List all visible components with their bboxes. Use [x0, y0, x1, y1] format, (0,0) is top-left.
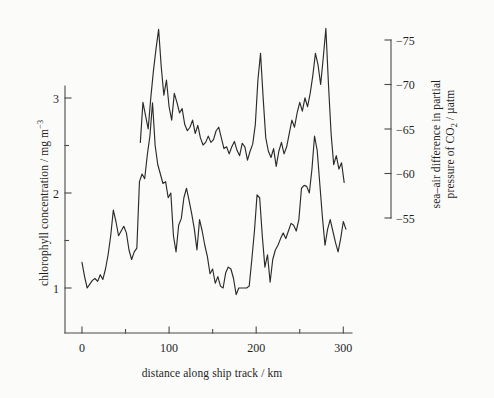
- y-axis-left-tick-label: 2: [53, 187, 59, 201]
- y-axis-right-tick-label: −60: [396, 167, 415, 181]
- y-axis-left-tick-label: 1: [53, 282, 59, 296]
- y-axis-right-tick-label: −75: [396, 34, 415, 48]
- x-axis-title: distance along ship track / km: [0, 367, 424, 379]
- x-axis-tick-label: 300: [334, 341, 352, 355]
- y-axis-right-tick-label: −65: [396, 123, 415, 137]
- chart-plot-area: 0100200300123−75−70−65−60−55: [0, 0, 494, 398]
- data-series-layer: [82, 28, 346, 294]
- x-axis-tick-label: 0: [79, 341, 85, 355]
- series-line-pco2: [140, 28, 344, 182]
- y-axis-left-title: chlorophyll concentration / mg m−3: [36, 78, 50, 328]
- y-axis-right-tick-label: −70: [396, 78, 415, 92]
- x-axis-tick-label: 200: [247, 341, 265, 355]
- tick-label-layer: 0100200300123−75−70−65−60−55: [53, 34, 415, 356]
- series-line-chlorophyll: [82, 103, 346, 295]
- y-axis-right-tick-label: −55: [396, 212, 415, 226]
- y-axis-right-subscript: 2: [451, 123, 460, 127]
- x-axis-tick-label: 100: [160, 341, 178, 355]
- axis-layer: [65, 40, 391, 333]
- y-axis-left-tick-label: 3: [53, 92, 59, 106]
- figure-container: 0100200300123−75−70−65−60−55 distance al…: [0, 0, 494, 398]
- y-axis-right-title: sea–air difference in partialpressure of…: [429, 44, 461, 244]
- y-axis-right-line2a: pressure of CO: [444, 127, 456, 198]
- y-axis-left-title-text: chlorophyll concentration / mg m: [38, 129, 50, 286]
- y-axis-right-line1: sea–air difference in partial: [430, 80, 442, 209]
- y-axis-left-exponent: −3: [36, 120, 45, 129]
- y-axis-right-line2b: / µatm: [444, 90, 456, 124]
